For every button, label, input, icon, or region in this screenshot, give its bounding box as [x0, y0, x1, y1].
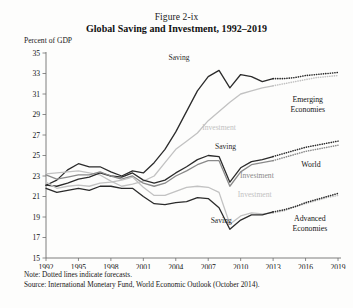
y-tick-label: 15 — [32, 254, 40, 263]
footnotes: Note: Dotted lines indicate forecasts. S… — [24, 270, 344, 289]
y-tick-label: 23 — [32, 172, 40, 181]
series-annotation: Investment — [202, 123, 237, 132]
x-tick-label: 2007 — [201, 263, 216, 269]
x-tick-label: 1998 — [103, 263, 118, 269]
group-label: Economies — [290, 105, 325, 114]
series-annotation: Saving — [168, 53, 189, 62]
group-label: Emerging — [292, 95, 323, 104]
figure-page: Figure 2-ix Global Saving and Investment… — [0, 0, 353, 308]
series-annotation: Investment — [240, 171, 275, 180]
figure-title: Global Saving and Investment, 1992–2019 — [0, 23, 353, 35]
axis-ticks: 1517192123252729313335199219951998200120… — [32, 49, 345, 269]
x-tick-label: 1992 — [38, 263, 53, 269]
series-line-forecast — [273, 193, 338, 211]
group-label: Economies — [293, 224, 328, 233]
group-labels: EmergingEconomiesWorldAdvancedEconomies — [290, 95, 327, 232]
y-tick-label: 35 — [32, 49, 40, 58]
x-tick-label: 1995 — [71, 263, 86, 269]
x-tick-label: 2001 — [136, 263, 151, 269]
y-tick-label: 27 — [32, 131, 40, 140]
y-tick-label: 31 — [32, 90, 40, 99]
x-tick-label: 2016 — [298, 263, 313, 269]
y-tick-label: 21 — [32, 192, 40, 201]
y-tick-label: 29 — [32, 110, 40, 119]
x-tick-label: 2010 — [233, 263, 248, 269]
series-line-forecast — [273, 141, 338, 156]
y-tick-label: 25 — [32, 151, 40, 160]
footnote-source: Source: International Monetary Fund, Wor… — [24, 280, 344, 290]
series-annotation: Investment — [238, 190, 273, 199]
x-tick-label: 2013 — [266, 263, 281, 269]
x-tick-label: 2019 — [330, 263, 345, 269]
series-annotation: Saving — [211, 216, 232, 225]
x-tick-label: 2004 — [168, 263, 183, 269]
chart-area: 1517192123252729313335199219951998200120… — [0, 44, 353, 269]
line-chart: 1517192123252729313335199219951998200120… — [0, 44, 353, 269]
series-line-forecast — [273, 72, 338, 78]
y-tick-label: 17 — [32, 233, 40, 242]
figure-caption: Figure 2-ix — [0, 11, 353, 23]
group-label: Advanced — [294, 214, 326, 223]
group-label: World — [301, 160, 320, 169]
series-annotation: Saving — [215, 142, 236, 151]
series-line-forecast — [273, 76, 338, 86]
y-tick-label: 33 — [32, 69, 40, 78]
footnote-note: Note: Dotted lines indicate forecasts. — [24, 270, 344, 280]
y-tick-label: 19 — [32, 213, 40, 222]
series-line-forecast — [273, 145, 338, 160]
series-line-actual — [46, 70, 273, 185]
